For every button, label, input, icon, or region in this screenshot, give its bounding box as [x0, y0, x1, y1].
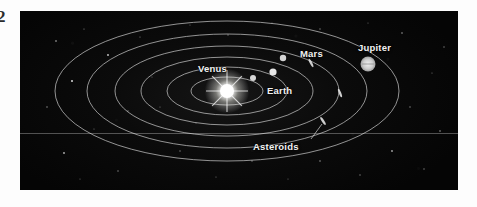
- page-margin-glyph: 2: [0, 8, 11, 26]
- scanned-page: 2 VenusEar: [0, 0, 477, 207]
- star: [107, 54, 109, 56]
- label-asteroids: Asteroids: [253, 141, 299, 152]
- star: [63, 152, 65, 154]
- star: [227, 34, 228, 35]
- star: [79, 178, 80, 179]
- star: [179, 150, 180, 151]
- star: [55, 40, 57, 42]
- star: [367, 22, 368, 23]
- planet-mars-marker: [280, 55, 286, 61]
- star: [151, 76, 152, 77]
- star: [423, 168, 424, 169]
- label-jupiter: Jupiter: [358, 42, 391, 53]
- sun-core: [220, 84, 234, 98]
- sun: [205, 69, 250, 114]
- planet-earth-marker: [269, 68, 276, 75]
- star: [46, 106, 47, 107]
- star: [319, 160, 321, 162]
- label-earth: Earth: [267, 85, 292, 96]
- star: [443, 46, 444, 47]
- star: [139, 36, 140, 37]
- star: [409, 106, 410, 107]
- asteroids-leader-line: [311, 124, 322, 139]
- star: [359, 174, 360, 175]
- asteroid-tick-lower: [319, 117, 326, 126]
- solar-system-photo-plate: VenusEarthMarsJupiterAsteroids: [20, 11, 458, 190]
- star: [189, 24, 190, 25]
- star: [71, 80, 73, 82]
- orbit-diagram-svg: [20, 11, 458, 190]
- star: [287, 178, 288, 179]
- label-mars: Mars: [300, 48, 323, 59]
- star: [391, 150, 393, 152]
- scan-seam-line: [0, 133, 477, 134]
- star: [439, 130, 441, 132]
- planet-venus-marker: [250, 75, 256, 81]
- star: [83, 28, 84, 29]
- label-venus: Venus: [198, 63, 227, 74]
- star: [319, 28, 320, 29]
- star: [401, 32, 403, 34]
- star: [215, 176, 216, 177]
- star: [159, 106, 160, 107]
- asteroid-tick-upper: [308, 58, 314, 67]
- star: [93, 128, 94, 129]
- star: [431, 72, 432, 73]
- star: [117, 170, 118, 171]
